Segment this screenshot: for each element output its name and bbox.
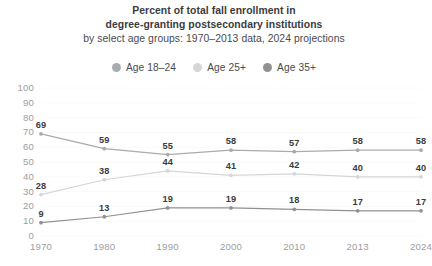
legend-item[interactable]: Age 35+ (263, 62, 316, 73)
y-axis-tick: 10 (23, 216, 34, 226)
data-point-label: 44 (162, 157, 172, 167)
data-point-label: 69 (36, 120, 46, 130)
data-point-label: 9 (38, 209, 43, 219)
y-axis-tick: 20 (23, 201, 34, 211)
data-point-marker[interactable] (419, 209, 423, 213)
y-axis-tick: 80 (23, 113, 34, 123)
data-point-label: 42 (289, 160, 299, 170)
data-point-label: 18 (289, 195, 299, 205)
data-point-label: 58 (352, 136, 362, 146)
data-point-marker[interactable] (356, 148, 360, 152)
legend-item[interactable]: Age 25+ (193, 62, 246, 73)
data-point-marker[interactable] (419, 175, 423, 179)
x-axis-tick: 1990 (157, 241, 179, 252)
data-point-marker[interactable] (39, 221, 43, 225)
chart-title-block: Percent of total fall enrollment in degr… (0, 4, 428, 47)
data-point-marker[interactable] (356, 209, 360, 213)
data-point-label: 40 (416, 163, 426, 173)
data-point-marker[interactable] (292, 207, 296, 211)
chart-subtitle: by select age groups: 1970–2013 data, 20… (0, 31, 428, 47)
data-point-label: 41 (226, 161, 236, 171)
y-axis-tick: 30 (23, 187, 34, 197)
data-point-label: 28 (36, 181, 46, 191)
legend-dot-icon (263, 63, 272, 72)
plot-area: 6959555857585828384441424040913191918171… (41, 88, 421, 236)
data-point-label: 58 (226, 136, 236, 146)
data-point-marker[interactable] (166, 206, 170, 210)
chart-title-line-2: degree-granting postsecondary institutio… (0, 18, 428, 32)
data-point-label: 58 (416, 136, 426, 146)
legend-dot-icon (193, 63, 202, 72)
data-point-label: 13 (99, 203, 109, 213)
chart-legend: Age 18–24Age 25+Age 35+ (0, 62, 428, 73)
y-axis-tick: 70 (23, 127, 34, 137)
y-axis-tick: 60 (23, 142, 34, 152)
data-point-marker[interactable] (229, 173, 233, 177)
data-point-marker[interactable] (102, 215, 106, 219)
data-point-label: 19 (226, 194, 236, 204)
legend-item-label: Age 18–24 (126, 62, 176, 73)
legend-item-label: Age 25+ (207, 62, 246, 73)
legend-item-label: Age 35+ (277, 62, 316, 73)
data-point-marker[interactable] (102, 147, 106, 151)
data-point-marker[interactable] (419, 148, 423, 152)
chart-title-line-1: Percent of total fall enrollment in (0, 4, 428, 18)
data-point-marker[interactable] (292, 150, 296, 154)
x-axis-tick: 2000 (220, 241, 242, 252)
data-point-marker[interactable] (39, 132, 43, 136)
data-point-marker[interactable] (292, 172, 296, 176)
x-axis-tick: 2024 (410, 241, 432, 252)
legend-dot-icon (112, 63, 121, 72)
x-axis-tick: 2013 (347, 241, 369, 252)
x-axis-tick: 1970 (30, 241, 52, 252)
data-point-label: 59 (99, 135, 109, 145)
data-point-marker[interactable] (102, 178, 106, 182)
y-axis-tick: 100 (17, 83, 34, 93)
data-point-label: 57 (289, 138, 299, 148)
data-point-marker[interactable] (39, 193, 43, 197)
series-line (41, 208, 421, 223)
data-point-label: 38 (99, 166, 109, 176)
y-axis-tick: 50 (23, 157, 34, 167)
y-axis-tick: 40 (23, 172, 34, 182)
data-point-label: 40 (352, 163, 362, 173)
data-point-label: 17 (352, 197, 362, 207)
y-axis-tick: 90 (23, 98, 34, 108)
data-point-label: 55 (162, 141, 172, 151)
data-point-marker[interactable] (166, 169, 170, 173)
y-axis-tick: 0 (28, 231, 34, 241)
y-axis-tick-labels: 1009080706050403020100 (0, 88, 34, 236)
data-point-marker[interactable] (229, 148, 233, 152)
legend-item[interactable]: Age 18–24 (112, 62, 176, 73)
data-point-label: 17 (416, 197, 426, 207)
data-point-marker[interactable] (229, 206, 233, 210)
data-point-label: 19 (162, 194, 172, 204)
x-axis-tick: 2010 (283, 241, 305, 252)
x-axis-tick: 1980 (93, 241, 115, 252)
data-point-marker[interactable] (356, 175, 360, 179)
x-axis-tick-labels: 1970198019902000201020132024 (41, 241, 421, 255)
